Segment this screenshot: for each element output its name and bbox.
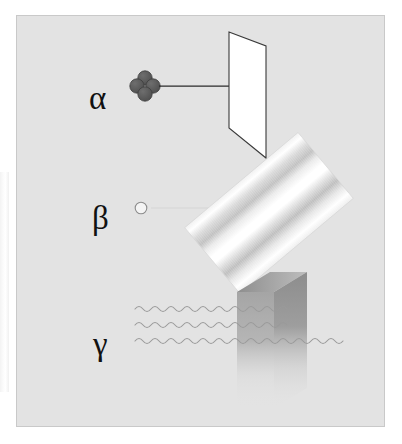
beta-row: [135, 132, 353, 293]
alpha-label: α: [89, 82, 106, 115]
radiation-penetration-figure: α β γ: [0, 0, 402, 444]
gamma-row: [135, 272, 343, 408]
beta-label: β: [92, 202, 109, 235]
alpha-particle-icon: [130, 71, 160, 101]
paper-sheet-icon: [229, 32, 266, 158]
beta-particle-icon: [135, 202, 147, 214]
gamma-label: γ: [93, 328, 108, 361]
diagram-canvas: [17, 16, 384, 426]
diagram-panel: α β γ: [16, 15, 385, 427]
alpha-row: [130, 32, 271, 164]
scan-edge-artifact: [0, 172, 9, 392]
metal-plate-icon: [185, 132, 354, 293]
